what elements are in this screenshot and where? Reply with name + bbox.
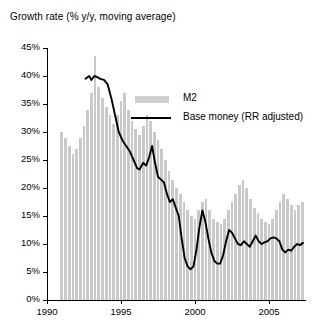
y-tick-label: 25% — [21, 153, 40, 164]
x-tick-label-2005: 2005 — [258, 306, 279, 317]
y-tick-label: 15% — [21, 209, 40, 220]
x-tick-label-1995: 1995 — [110, 306, 131, 317]
x-tick-mark — [121, 300, 122, 304]
x-tick-mark — [47, 300, 48, 304]
y-tick-mark — [43, 272, 47, 273]
chart-title: Growth rate (% y/y, moving average) — [10, 11, 176, 22]
plot-area: 0%5%10%15%20%25%30%35%40%45% 19901995200… — [47, 48, 306, 300]
y-tick-label: 40% — [21, 69, 40, 80]
y-tick-label: 0% — [26, 293, 40, 304]
base-money-line-series — [47, 48, 306, 300]
y-tick-mark — [43, 188, 47, 189]
y-tick-label: 10% — [21, 237, 40, 248]
x-tick-label-2000: 2000 — [184, 306, 205, 317]
growth-rate-chart: Growth rate (% y/y, moving average) 0%5%… — [0, 0, 315, 326]
y-tick-mark — [43, 76, 47, 77]
y-tick-label: 45% — [21, 41, 40, 52]
y-tick-mark — [43, 160, 47, 161]
y-tick-label: 30% — [21, 125, 40, 136]
x-tick-mark — [269, 300, 270, 304]
x-axis-line — [47, 300, 306, 301]
y-tick-label: 35% — [21, 97, 40, 108]
y-tick-label: 5% — [26, 265, 40, 276]
y-tick-label: 20% — [21, 181, 40, 192]
y-tick-mark — [43, 104, 47, 105]
x-tick-label-1990: 1990 — [36, 306, 57, 317]
y-tick-mark — [43, 216, 47, 217]
y-tick-mark — [43, 48, 47, 49]
y-tick-mark — [43, 132, 47, 133]
y-tick-mark — [43, 244, 47, 245]
plot-clip — [47, 48, 306, 300]
x-tick-mark — [195, 300, 196, 304]
